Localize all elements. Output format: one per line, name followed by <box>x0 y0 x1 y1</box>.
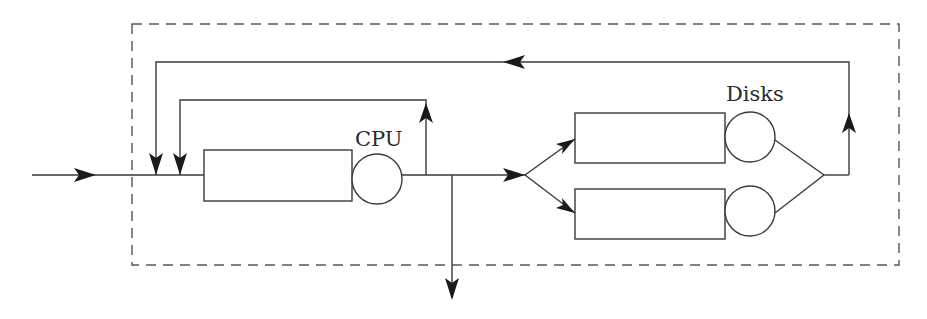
cpu-queue <box>204 150 352 201</box>
disks-label: Disks <box>726 82 784 106</box>
output-arrow <box>445 175 459 300</box>
disk-server-2 <box>725 186 775 236</box>
disk-merge <box>775 140 849 213</box>
disk-server-1 <box>725 112 775 162</box>
input-arrow <box>32 168 204 182</box>
cpu-station: CPU <box>204 127 403 204</box>
arrowhead-icon <box>556 139 575 154</box>
disk-split <box>525 139 575 213</box>
cpu-server <box>352 154 402 204</box>
disk-station-1 <box>575 112 775 163</box>
queueing-network-diagram: CPU Disks <box>0 0 927 319</box>
cpu-label: CPU <box>355 127 403 151</box>
disk-queue-1 <box>575 113 725 163</box>
disk-queue-2 <box>575 189 725 239</box>
disk-station-2 <box>575 186 775 239</box>
